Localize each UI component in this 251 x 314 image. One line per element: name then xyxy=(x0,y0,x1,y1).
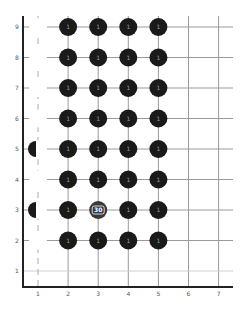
column-label: 3 xyxy=(96,290,100,297)
column-labels: 1234567 xyxy=(36,290,221,297)
half-stone xyxy=(28,141,36,157)
stone-label: 1 xyxy=(66,115,70,122)
ghost-stone xyxy=(29,171,47,189)
ghost-stone xyxy=(29,79,47,97)
stone-label: 1 xyxy=(126,54,130,61)
stone-label: 1 xyxy=(126,84,130,91)
column-label: 7 xyxy=(217,290,221,297)
stone-label: 1 xyxy=(156,176,160,183)
stone-label: 1 xyxy=(96,54,100,61)
row-label: 7 xyxy=(15,84,19,91)
row-label: 8 xyxy=(15,54,19,61)
stone-label: 1 xyxy=(66,84,70,91)
row-label: 2 xyxy=(15,237,19,244)
game-board[interactable]: 1234567 123456789 1111111111111111111111… xyxy=(0,0,251,314)
stones: 111111111111111111111111130111111 xyxy=(59,18,167,250)
stone-label: 1 xyxy=(156,84,160,91)
ghost-stone xyxy=(29,49,47,67)
stone-label: 1 xyxy=(96,145,100,152)
stone-label: 1 xyxy=(156,206,160,213)
ghost-stone xyxy=(29,18,47,36)
column-label: 2 xyxy=(66,290,70,297)
stone-label: 1 xyxy=(126,176,130,183)
stone-label: 1 xyxy=(66,176,70,183)
stone-label: 1 xyxy=(66,54,70,61)
half-stone xyxy=(28,202,36,218)
stone-label: 1 xyxy=(126,206,130,213)
stone-label: 30 xyxy=(94,206,102,213)
stone-label: 1 xyxy=(156,237,160,244)
ghost-stone xyxy=(29,232,47,250)
ghost-stone xyxy=(29,110,47,128)
row-label: 5 xyxy=(15,145,19,152)
stone-label: 1 xyxy=(126,115,130,122)
row-label: 1 xyxy=(15,267,19,274)
row-label: 3 xyxy=(15,206,19,213)
stone-label: 1 xyxy=(156,23,160,30)
stone-label: 1 xyxy=(66,145,70,152)
row-label: 9 xyxy=(15,23,19,30)
column-label: 4 xyxy=(126,290,130,297)
column-label: 1 xyxy=(36,290,40,297)
stone-label: 1 xyxy=(66,206,70,213)
column-label: 5 xyxy=(156,290,160,297)
stone-label: 1 xyxy=(66,23,70,30)
stone-label: 1 xyxy=(96,23,100,30)
row-label: 6 xyxy=(15,115,19,122)
column-label: 6 xyxy=(187,290,191,297)
stone-label: 1 xyxy=(126,145,130,152)
stone-label: 1 xyxy=(156,145,160,152)
stone-label: 1 xyxy=(96,84,100,91)
stone-label: 1 xyxy=(156,54,160,61)
stone-label: 1 xyxy=(96,237,100,244)
stone-label: 1 xyxy=(156,115,160,122)
row-label: 4 xyxy=(15,176,19,183)
stone-label: 1 xyxy=(96,115,100,122)
stone-label: 1 xyxy=(126,237,130,244)
row-labels: 123456789 xyxy=(15,23,19,274)
stone-label: 1 xyxy=(66,237,70,244)
stone-label: 1 xyxy=(96,176,100,183)
stone-label: 1 xyxy=(126,23,130,30)
